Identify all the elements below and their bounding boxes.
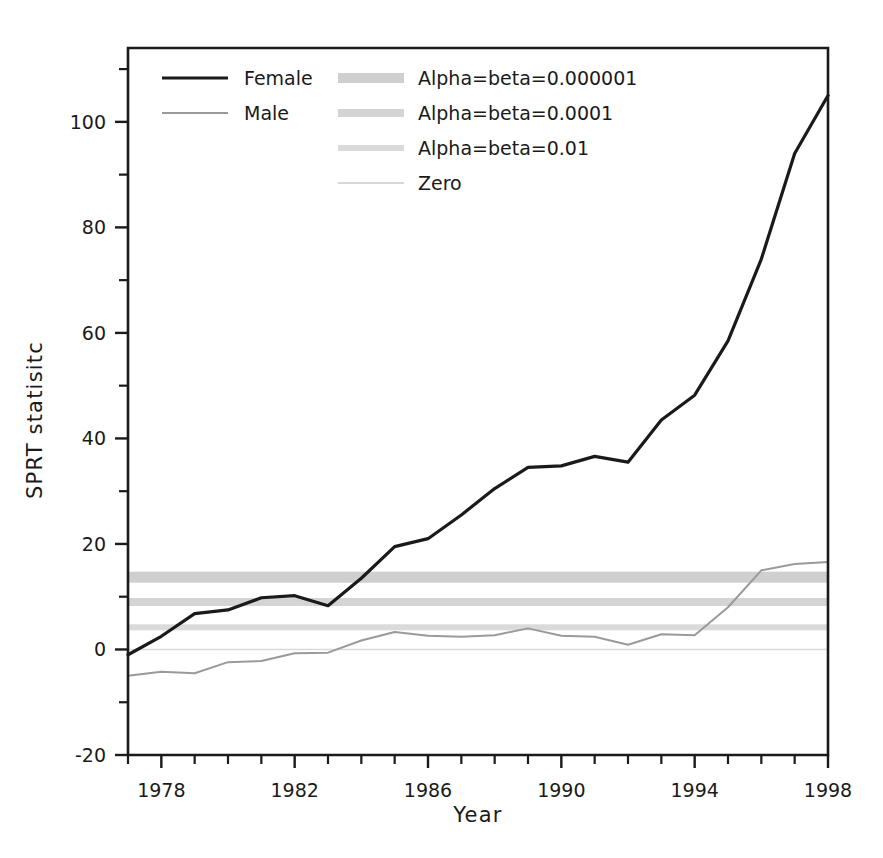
legend-label: Alpha=beta=0.01 — [418, 137, 589, 159]
sprt-line-chart: -20020406080100197819821986199019941998 … — [0, 0, 883, 858]
y-tick-label: 0 — [94, 638, 106, 660]
legend-label: Zero — [418, 172, 462, 194]
threshold-band — [128, 624, 828, 630]
x-tick-label: 1978 — [137, 779, 185, 801]
x-tick-label: 1982 — [270, 779, 318, 801]
legend-swatch-band — [338, 182, 404, 184]
x-tick-label: 1986 — [404, 779, 452, 801]
threshold-band — [128, 649, 828, 650]
threshold-band — [128, 572, 828, 583]
legend-label: Female — [244, 67, 313, 89]
legend-swatch-band — [338, 109, 404, 117]
x-tick-label: 1994 — [670, 779, 718, 801]
legend-label: Alpha=beta=0.0001 — [418, 102, 613, 124]
y-axis-title: SPRT statisitc — [23, 341, 47, 499]
y-tick-label: 80 — [82, 216, 106, 238]
y-tick-label: 60 — [82, 322, 106, 344]
legend-swatch-band — [338, 73, 404, 83]
x-tick-label: 1990 — [537, 779, 585, 801]
legend-swatch-band — [338, 145, 404, 151]
chart-background — [0, 0, 883, 858]
chart-page: -20020406080100197819821986199019941998 … — [0, 0, 883, 858]
y-tick-label: -20 — [75, 744, 106, 766]
legend-label: Male — [244, 102, 289, 124]
legend-label: Alpha=beta=0.000001 — [418, 67, 637, 89]
y-tick-label: 100 — [70, 111, 106, 133]
y-tick-label: 20 — [82, 533, 106, 555]
threshold-band — [128, 598, 828, 606]
y-tick-label: 40 — [82, 427, 106, 449]
x-tick-label: 1998 — [804, 779, 852, 801]
x-axis-title: Year — [452, 803, 502, 827]
